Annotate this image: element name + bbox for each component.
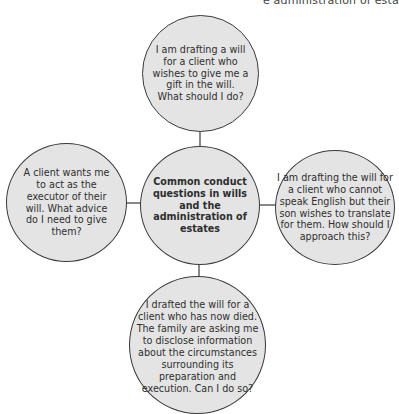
node-translation: I am drafting the will for a client who … (275, 150, 395, 265)
node-gift-in-will: I am drafting a will for a client who wi… (142, 15, 259, 132)
node-text: Common conduct questions in wills and th… (150, 176, 250, 236)
node-text: I am drafting the will for a client who … (277, 172, 393, 243)
node-disclosure-after-death: I drafted the will for a client who has … (129, 276, 266, 414)
node-text: A client wants me to act as the executor… (21, 167, 113, 238)
node-text: I am drafting a will for a client who wi… (153, 44, 249, 104)
node-text: I drafted the will for a client who has … (134, 299, 262, 394)
node-central-topic: Common conduct questions in wills and th… (140, 146, 260, 265)
node-executor-advice: A client wants me to act as the executor… (6, 143, 127, 262)
